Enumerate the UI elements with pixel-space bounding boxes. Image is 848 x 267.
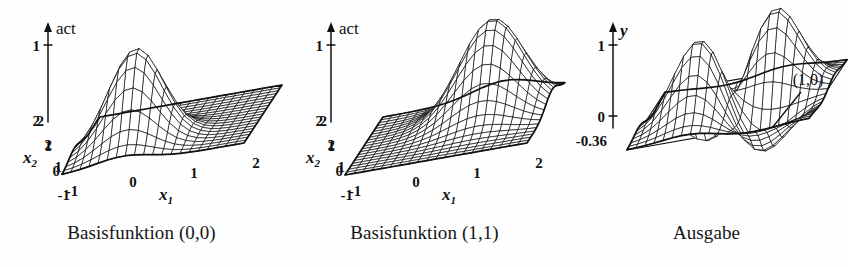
figure-container: 12act21x2-1012x1210-1 Basisfunktion (0,0… [0,0,848,267]
svg-text:2: 2 [535,155,543,171]
depth-tick-label: -1 [341,187,354,203]
svg-text:x2: x2 [22,148,38,169]
surface-plot-basisfunktion-11: 12act21x2-1012x1210-1 [283,0,566,220]
svg-text:(1,0): (1,0) [793,71,824,89]
depth-tick-label: 0 [53,163,61,179]
depth-tick-label: 2 [320,113,328,129]
svg-text:0: 0 [129,174,137,190]
depth-tick-label: -1 [58,187,71,203]
depth-tick-label: 1 [45,138,53,154]
svg-text:1: 1 [473,165,481,181]
panel-caption: Basisfunktion (0,0) [0,222,283,244]
panel-ausgabe: 10-0.36y(1,0) Ausgabe [565,0,848,267]
svg-text:act: act [56,19,76,38]
panel-caption: Basisfunktion (1,1) [283,222,566,244]
svg-text:x1: x1 [158,185,173,206]
panel-basisfunktion-11: 12act21x2-1012x1210-1 Basisfunktion (1,1… [283,0,566,267]
svg-text:x1: x1 [441,185,456,206]
svg-text:0: 0 [598,109,606,125]
svg-text:0: 0 [412,174,420,190]
surface-plot-ausgabe: 10-0.36y(1,0) [565,0,848,220]
svg-text:x2: x2 [305,148,321,169]
svg-text:y: y [618,21,628,40]
svg-text:1: 1 [190,165,198,181]
depth-tick-label: 2 [37,113,45,129]
svg-text:1: 1 [598,38,606,54]
svg-text:2: 2 [252,155,260,171]
panel-caption: Ausgabe [565,222,848,244]
svg-text:act: act [339,19,359,38]
depth-tick-label: 0 [336,163,344,179]
svg-text:1: 1 [316,38,324,54]
surface-plot-basisfunktion-00: 12act21x2-1012x1210-1 [0,0,283,220]
svg-text:1: 1 [33,38,41,54]
panel-basisfunktion-00: 12act21x2-1012x1210-1 Basisfunktion (0,0… [0,0,283,267]
svg-text:-0.36: -0.36 [576,133,608,149]
depth-tick-label: 1 [328,138,336,154]
